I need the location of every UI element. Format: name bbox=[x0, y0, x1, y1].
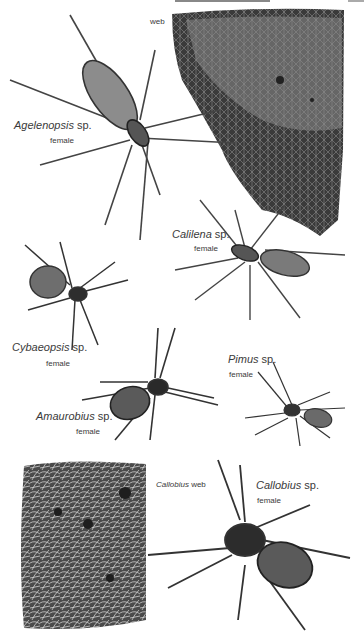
pimus-sex: female bbox=[229, 370, 253, 379]
amaurobius-sex: female bbox=[76, 427, 100, 436]
calilena-label: Calilena sp. bbox=[172, 228, 229, 240]
calilena-sex: female bbox=[194, 244, 218, 253]
callobius-genus: Callobius bbox=[256, 479, 301, 491]
callobius-web-label: Callobius web bbox=[156, 480, 206, 489]
callobius-suffix: sp. bbox=[301, 479, 319, 491]
agelenopsis-suffix: sp. bbox=[74, 119, 92, 131]
callobius-label: Callobius sp. bbox=[256, 479, 319, 491]
agelenopsis-sex: female bbox=[50, 136, 74, 145]
callobius-web-genus: Callobius bbox=[156, 480, 189, 489]
agelenopsis-label: Agelenopsis sp. bbox=[14, 119, 92, 131]
callobius-web-image bbox=[21, 461, 146, 629]
cybaeopsis-spider bbox=[25, 242, 128, 350]
callobius-sex: female bbox=[257, 496, 281, 505]
callobius-web-suffix: web bbox=[189, 480, 206, 489]
pimus-label: Pimus sp. bbox=[228, 353, 276, 365]
web-label: web bbox=[150, 17, 165, 26]
funnel-web-image bbox=[172, 9, 344, 236]
spider-illustrations bbox=[0, 0, 364, 643]
cybaeopsis-sex: female bbox=[46, 359, 70, 368]
cybaeopsis-label: Cybaeopsis sp. bbox=[12, 341, 87, 353]
amaurobius-genus: Amaurobius bbox=[36, 410, 95, 422]
pimus-suffix: sp. bbox=[259, 353, 277, 365]
calilena-genus: Calilena bbox=[172, 228, 212, 240]
agelenopsis-genus: Agelenopsis bbox=[14, 119, 74, 131]
amaurobius-suffix: sp. bbox=[95, 410, 113, 422]
pimus-genus: Pimus bbox=[228, 353, 259, 365]
cybaeopsis-genus: Cybaeopsis bbox=[12, 341, 69, 353]
calilena-suffix: sp. bbox=[212, 228, 230, 240]
amaurobius-spider bbox=[82, 328, 218, 440]
amaurobius-label: Amaurobius sp. bbox=[36, 410, 112, 422]
pimus-spider bbox=[245, 362, 345, 446]
cybaeopsis-suffix: sp. bbox=[69, 341, 87, 353]
